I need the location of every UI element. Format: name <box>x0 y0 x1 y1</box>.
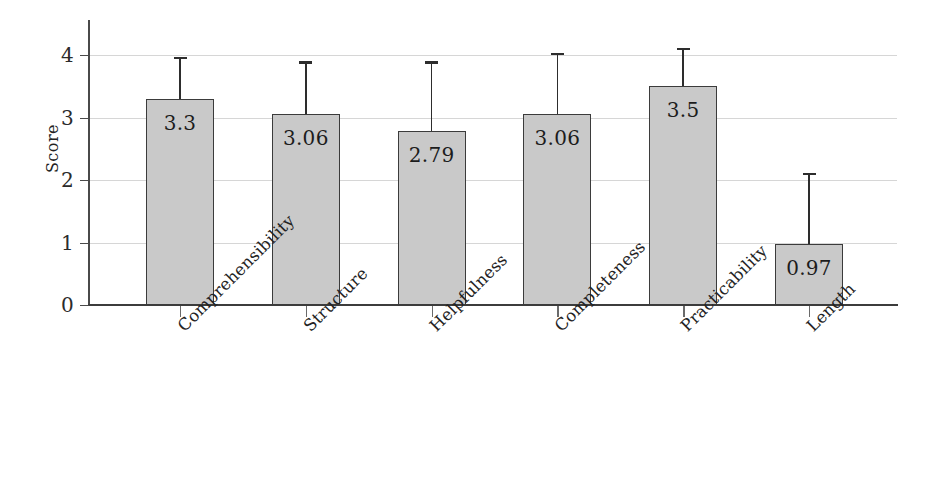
y-tick-label-2: 2 <box>61 168 74 192</box>
error-bar-stem-completeness <box>557 53 559 114</box>
y-tick-mark-4 <box>80 55 89 56</box>
bar-value-label-helpfulness: 2.79 <box>398 143 466 167</box>
error-bar-cap-length <box>803 173 816 175</box>
error-bar-stem-helpfulness <box>431 61 433 130</box>
error-bar-cap-practicability <box>677 48 690 50</box>
y-axis-line <box>88 20 90 306</box>
error-bar-cap-completeness <box>551 53 564 55</box>
y-tick-label-3: 3 <box>61 106 74 130</box>
bar-value-label-completeness: 3.06 <box>523 126 591 150</box>
y-tick-label-1: 1 <box>61 231 74 255</box>
error-bar-stem-structure <box>305 61 307 114</box>
bar-value-label-structure: 3.06 <box>272 126 340 150</box>
bar-value-label-comprehensibility: 3.3 <box>146 111 214 135</box>
error-bar-stem-length <box>808 173 810 245</box>
bar-value-label-length: 0.97 <box>775 256 843 280</box>
y-tick-mark-2 <box>80 180 89 181</box>
y-axis-title: Score <box>43 89 62 209</box>
gridline-y-4 <box>88 55 897 56</box>
y-tick-mark-1 <box>80 243 89 244</box>
bar-chart-figure: Score 4 3 2 1 0 3.33.062.793.063.50.97 C… <box>0 0 925 490</box>
error-bar-stem-practicability <box>682 48 684 87</box>
error-bar-cap-comprehensibility <box>174 57 187 59</box>
y-tick-label-4: 4 <box>61 43 74 67</box>
error-bar-cap-structure <box>299 61 312 63</box>
y-tick-label-0: 0 <box>61 293 74 317</box>
y-tick-mark-3 <box>80 118 89 119</box>
error-bar-cap-helpfulness <box>425 61 438 63</box>
bar-value-label-practicability: 3.5 <box>649 98 717 122</box>
y-tick-mark-0 <box>80 305 89 306</box>
error-bar-stem-comprehensibility <box>179 57 181 99</box>
